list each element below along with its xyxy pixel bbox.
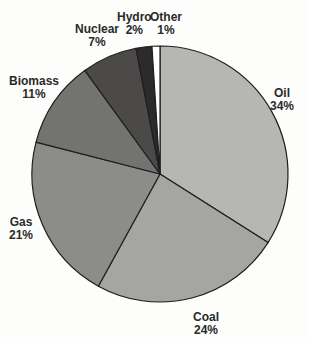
label-biomass: Biomass11% bbox=[9, 75, 59, 101]
label-coal: Coal24% bbox=[193, 311, 219, 337]
label-nuclear: Nuclear7% bbox=[75, 23, 119, 49]
label-gas: Gas21% bbox=[9, 216, 33, 242]
label-hydro: Hydro2% bbox=[117, 11, 152, 37]
label-oil: Oil34% bbox=[270, 87, 294, 113]
pie-slices bbox=[32, 46, 288, 302]
pie-chart bbox=[0, 0, 309, 337]
label-other: Other1% bbox=[150, 11, 182, 37]
